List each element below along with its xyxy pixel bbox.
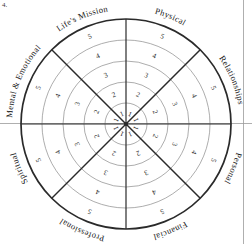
sector-divider-lifes-mission [52,50,126,124]
ring-value-relationships-5: 5 [209,85,218,92]
sector-label-financial: Financial [152,220,189,243]
ring-value-relationships-2: 2 [151,109,160,116]
ring-value-spiritual-4: 4 [54,149,63,156]
ring-value-personal-3: 3 [170,141,179,148]
ring-value-mental-emotional-3: 3 [73,100,82,107]
wheel-of-life-figure: 4. 1234512345123451234512345123451234512… [0,0,252,244]
ring-value-professional-5: 5 [86,207,93,216]
ring-value-mental-emotional-5: 5 [34,84,43,91]
ring-value-physical-2: 2 [135,91,142,100]
ring-value-professional-3: 3 [102,168,109,177]
ring-value-physical-3: 3 [143,71,150,80]
ring-value-personal-4: 4 [189,149,198,156]
ring-value-financial-2: 2 [134,149,141,158]
sector-label-mental-emotional: Mental & Emotional [4,42,43,118]
ring-value-personal-2: 2 [151,133,160,140]
corner-mark: 4. [2,1,7,10]
ring-value-spiritual-2: 2 [92,132,101,139]
wheel-of-life-chart: 1234512345123451234512345123451234512345… [0,0,252,244]
ring-value-mental-emotional-2: 2 [93,108,102,115]
ring-value-financial-3: 3 [143,168,150,177]
center-hub [124,122,128,126]
ring-value-relationships-3: 3 [170,101,179,108]
ring-value-personal-5: 5 [209,157,218,164]
ring-value-professional-2: 2 [110,149,117,158]
ring-value-spiritual-3: 3 [73,141,82,148]
ring-value-lifes-mission-3: 3 [103,71,110,80]
ring-value-mental-emotional-4: 4 [54,92,63,99]
ring-value-lifes-mission-2: 2 [111,90,118,99]
ring-value-physical-5: 5 [159,32,166,41]
ring-value-physical-4: 4 [151,52,158,61]
ring-value-financial-5: 5 [159,207,166,216]
sector-divider-relationships [126,50,200,124]
ring-value-relationships-4: 4 [190,93,199,100]
sector-label-professional: Professional [57,216,105,243]
sector-divider-financial [126,124,200,198]
ring-value-financial-4: 4 [151,188,158,197]
ring-value-spiritual-5: 5 [34,157,43,164]
sector-divider-spiritual [52,124,126,198]
ring-value-lifes-mission-4: 4 [95,52,102,61]
ring-value-lifes-mission-5: 5 [87,32,94,41]
ring-value-professional-4: 4 [94,187,101,196]
